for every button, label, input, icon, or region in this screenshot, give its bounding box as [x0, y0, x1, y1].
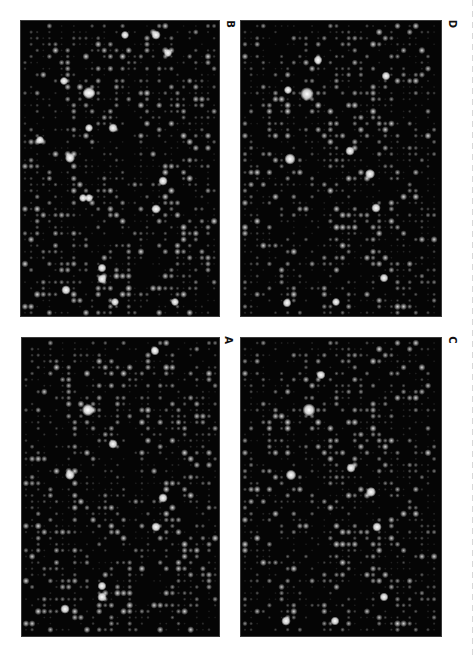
panel-label-c: C — [446, 334, 458, 346]
microarray-panel-c — [240, 337, 442, 637]
microarray-panel-b — [20, 20, 220, 317]
spot-grid-d — [241, 21, 442, 317]
panel-label-a: A — [222, 334, 234, 346]
spot-grid-a — [22, 338, 220, 637]
microarray-panel-d — [240, 20, 442, 317]
spot-grid-b — [21, 21, 220, 317]
panel-label-d: D — [446, 18, 458, 30]
microarray-panel-a — [21, 337, 220, 637]
spot-grid-c — [241, 338, 442, 637]
panel-label-b: B — [224, 18, 236, 30]
